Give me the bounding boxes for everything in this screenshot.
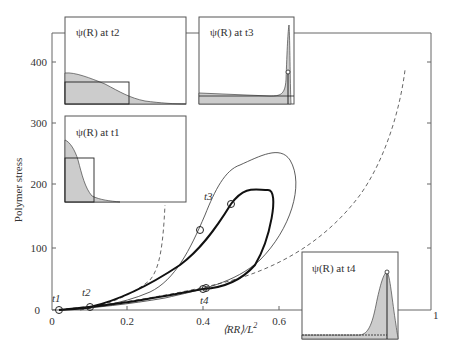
inset-t3-title: ψ(R) at t3 <box>210 26 254 39</box>
inset-t3-marker <box>286 70 290 74</box>
y-tick-100: 100 <box>31 242 48 254</box>
x-tick-1: 1 <box>433 309 439 321</box>
x-tick-0.6: 0.6 <box>272 315 286 327</box>
x-axis-title-main: ⟨RR⟩/L <box>223 323 254 335</box>
y-tick-400: 400 <box>31 56 48 68</box>
y-tick-200: 200 <box>31 178 48 190</box>
annotation-t2: t2 <box>82 286 91 298</box>
inset-t4: ψ(R) at t4 <box>302 252 398 339</box>
y-tick-0: 0 <box>35 304 41 316</box>
x-axis-title-sup: 2 <box>253 321 257 330</box>
y-axis-title: Polymer stress <box>12 158 24 222</box>
inset-t2: ψ(R) at t2 <box>65 17 186 104</box>
x-tick-0.4: 0.4 <box>196 315 210 327</box>
annotation-t3: t3 <box>204 190 213 202</box>
inset-t4-title: ψ(R) at t4 <box>312 262 356 275</box>
inset-t2-title: ψ(R) at t2 <box>76 26 120 39</box>
y-tick-300: 300 <box>31 117 48 129</box>
chart-canvas: 0 100 200 300 400 0 0.2 0.4 0.6 1 Polyme… <box>0 0 452 351</box>
x-tick-0.2: 0.2 <box>120 315 134 327</box>
marker-mid <box>197 227 204 234</box>
inset-t1: ψ(R) at t1 <box>65 116 186 202</box>
annotation-t4: t4 <box>200 294 209 306</box>
annotation-t1: t1 <box>52 292 61 304</box>
inset-t3: ψ(R) at t3 <box>199 17 294 104</box>
inset-t4-marker <box>385 270 389 274</box>
dashed-steep-curve <box>80 205 165 310</box>
bold-hysteresis-loop <box>59 189 273 310</box>
x-tick-0: 0 <box>49 315 55 327</box>
inset-t1-title: ψ(R) at t1 <box>76 126 120 139</box>
x-axis-title: ⟨RR⟩/L2 <box>223 321 258 335</box>
